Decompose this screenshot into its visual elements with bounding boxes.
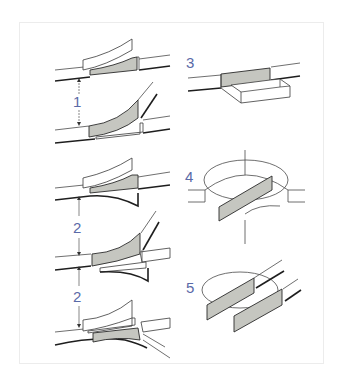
- arrow-down-icon: [77, 324, 81, 328]
- diagram-1-top: [55, 39, 170, 81]
- arrow-down-icon: [77, 122, 81, 126]
- diagram-5: [202, 260, 301, 332]
- label-5: 5: [186, 280, 194, 295]
- diagram-3: [188, 63, 300, 103]
- label-4: 4: [185, 169, 193, 184]
- diagram-1-bottom: [55, 82, 170, 143]
- diagram-canvas: [0, 0, 342, 388]
- label-2b: 2: [73, 289, 81, 304]
- label-3: 3: [186, 55, 194, 70]
- diagram-4: [188, 150, 305, 244]
- label-1: 1: [73, 94, 81, 109]
- diagram-2a: [55, 158, 170, 206]
- diagram-2c: [55, 300, 170, 358]
- label-2a: 2: [73, 220, 81, 235]
